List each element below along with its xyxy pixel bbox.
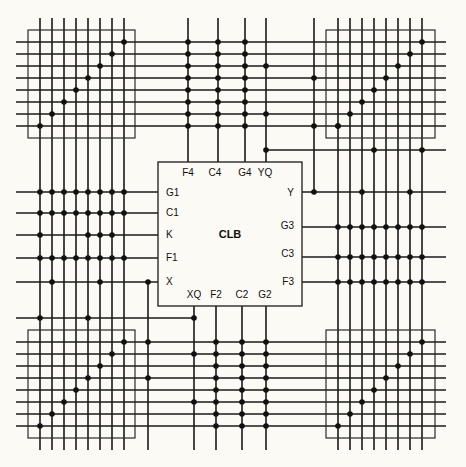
connection-dot	[97, 279, 103, 285]
connection-dot	[215, 87, 221, 93]
connection-dot	[121, 189, 127, 195]
connection-dot	[371, 279, 377, 285]
connection-dot	[215, 51, 221, 57]
connection-dot	[383, 279, 389, 285]
connection-dot	[419, 254, 425, 260]
connection-dot	[419, 224, 425, 230]
connection-dot	[49, 111, 55, 117]
connection-dot	[335, 123, 341, 129]
connection-dot	[263, 339, 269, 345]
connection-dot	[239, 363, 245, 369]
connection-dot	[215, 123, 221, 129]
pin-label-right: C3	[281, 248, 294, 259]
pin-label-right: Y	[287, 187, 294, 198]
connection-dot	[239, 387, 245, 393]
switch-matrix-bottom-right	[326, 330, 435, 438]
connection-dot	[383, 375, 389, 381]
connection-dot	[37, 189, 43, 195]
connection-dot	[335, 254, 341, 260]
connection-dot	[263, 147, 269, 153]
pin-label-bottom: C2	[236, 289, 249, 300]
connection-dot	[371, 224, 377, 230]
connection-dot	[213, 399, 219, 405]
connection-dot	[185, 99, 191, 105]
connection-dot	[121, 39, 127, 45]
pin-label-left: X	[166, 276, 173, 287]
connection-dot	[263, 63, 269, 69]
connection-dot	[311, 75, 317, 81]
connection-dot	[37, 255, 43, 261]
connection-dot	[419, 279, 425, 285]
connection-dot	[383, 254, 389, 260]
connection-dot	[419, 339, 425, 345]
connection-dot	[263, 387, 269, 393]
connection-dot	[213, 351, 219, 357]
connection-dot	[213, 339, 219, 345]
connection-dot	[109, 51, 115, 57]
clb-label: CLB	[219, 228, 242, 240]
connection-dot	[49, 189, 55, 195]
connection-dot	[242, 39, 248, 45]
connection-dot	[49, 411, 55, 417]
connection-dot	[383, 224, 389, 230]
connection-dot	[371, 87, 377, 93]
connection-dot	[311, 189, 317, 195]
connection-dot	[242, 75, 248, 81]
connection-dot	[407, 189, 413, 195]
connection-dot	[213, 375, 219, 381]
connection-dot	[359, 99, 365, 105]
connection-dot	[239, 375, 245, 381]
connection-dot	[85, 315, 91, 321]
connection-dot	[185, 75, 191, 81]
connection-dot	[85, 255, 91, 261]
connection-dot	[185, 39, 191, 45]
connection-dot	[145, 339, 151, 345]
connection-dot	[85, 189, 91, 195]
connection-dot	[407, 254, 413, 260]
connection-dot	[383, 75, 389, 81]
connection-dot	[242, 87, 248, 93]
connection-dot	[239, 399, 245, 405]
connection-dot	[37, 210, 43, 216]
connection-dot	[359, 224, 365, 230]
connection-dot	[419, 147, 425, 153]
connection-dot	[347, 224, 353, 230]
connection-dot	[61, 99, 67, 105]
connection-dot	[121, 255, 127, 261]
connection-dot	[395, 363, 401, 369]
connection-dot	[109, 232, 115, 238]
connection-dot	[85, 75, 91, 81]
connection-dot	[263, 363, 269, 369]
connection-dot	[215, 99, 221, 105]
connection-dot	[242, 123, 248, 129]
connection-dot	[335, 224, 341, 230]
connection-dot	[97, 210, 103, 216]
pin-label-right: G3	[281, 220, 295, 231]
connection-dot	[242, 63, 248, 69]
connection-dot	[359, 279, 365, 285]
connection-dot	[213, 387, 219, 393]
connection-dot	[242, 99, 248, 105]
connection-dot	[347, 279, 353, 285]
connection-dot	[61, 210, 67, 216]
connection-dot	[359, 189, 365, 195]
connection-dot	[359, 399, 365, 405]
connection-dot	[85, 210, 91, 216]
connection-dot	[97, 255, 103, 261]
pin-label-top: C4	[209, 167, 222, 178]
connection-dot	[407, 279, 413, 285]
connection-dot	[395, 63, 401, 69]
connection-dot	[371, 387, 377, 393]
connection-dot	[371, 254, 377, 260]
connection-dot	[73, 255, 79, 261]
connection-dot	[359, 254, 365, 260]
connection-dot	[73, 387, 79, 393]
connection-dot	[242, 111, 248, 117]
connection-dot	[213, 423, 219, 429]
pin-label-left: K	[166, 229, 173, 240]
connection-dot	[73, 210, 79, 216]
connection-dot	[61, 189, 67, 195]
connection-dot	[407, 51, 413, 57]
connection-dot	[185, 111, 191, 117]
pin-label-bottom: G2	[258, 289, 272, 300]
